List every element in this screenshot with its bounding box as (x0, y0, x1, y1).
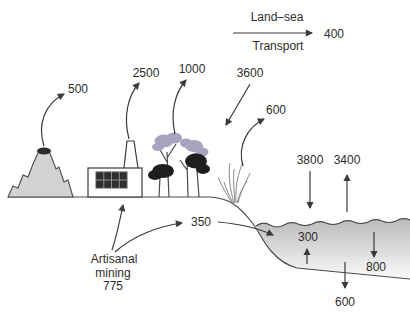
artisanal-label-line1: Artisanal (91, 252, 138, 266)
legend-value: 400 (324, 27, 344, 41)
coastal-emission-arrow (241, 119, 264, 166)
industry-emission-value: 2500 (133, 66, 160, 80)
industry-emission-arrow (126, 83, 139, 139)
tree-canopy-dark (148, 154, 210, 181)
vegetation-emission-arrow (173, 80, 186, 134)
mining-to-river-arrow (115, 223, 182, 252)
land-deposition-arrow (226, 84, 250, 125)
legend-title-line2: Transport (253, 39, 305, 53)
sea-evasion-value: 3400 (334, 153, 361, 167)
volcano-crater (37, 148, 51, 155)
volcano (8, 148, 73, 198)
artisanal-value: 775 (103, 279, 123, 293)
factory (88, 141, 142, 197)
vegetation-emission-value: 1000 (179, 62, 206, 76)
particle-settling-value: 800 (366, 260, 386, 274)
volcano-body (8, 151, 73, 197)
sediment-release-value: 300 (298, 230, 318, 244)
coastal-grass (218, 162, 250, 203)
trees (148, 133, 210, 198)
land-deposition-value: 3600 (237, 66, 264, 80)
sea (256, 219, 410, 279)
volcano-emission-arrow (41, 94, 64, 146)
tree-canopy-light (152, 133, 209, 157)
factory-chimney (124, 141, 138, 168)
volcano-emission-value: 500 (68, 82, 88, 96)
coastal-emission-value: 600 (266, 103, 286, 117)
river-transport-value: 350 (191, 215, 211, 229)
sea-deposition-value: 3800 (297, 153, 324, 167)
diagram-canvas: Land–sea Transport 400 500 2500 1000 360… (0, 0, 410, 313)
mining-to-land-arrow (112, 205, 123, 250)
artisanal-label-line2: mining (95, 266, 130, 280)
sea-water-fill (256, 219, 410, 279)
land-sea-flux-diagram: Land–sea Transport 400 500 2500 1000 360… (0, 0, 410, 313)
legend-title-line1: Land–sea (251, 10, 304, 24)
sediment-burial-value: 600 (335, 295, 355, 309)
